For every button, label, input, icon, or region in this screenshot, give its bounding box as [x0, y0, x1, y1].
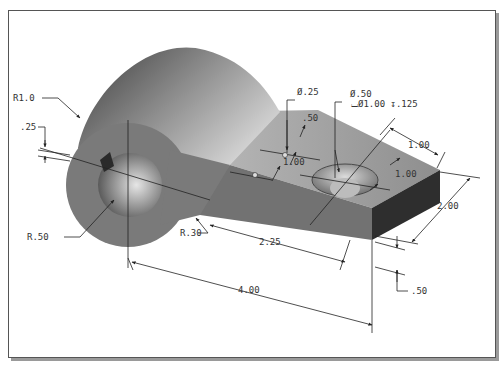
dim-slot-width: .25: [20, 122, 36, 132]
dim-small-hole-dia: Ø.25: [297, 87, 319, 97]
dim-r-bore: R.50: [27, 232, 49, 242]
dim-plate-width: 2.00: [437, 201, 459, 211]
dim-r-outer: R1.0: [13, 93, 35, 103]
dim-plate-thickness: .50: [411, 286, 427, 296]
dim-hole-offset: 2.25: [259, 237, 281, 247]
dim-r-fillet: R.30: [180, 228, 202, 238]
dim-small-hole-spacing-y: 1.00: [283, 157, 305, 167]
small-hole-2: [253, 173, 258, 178]
dim-cbore-from-edge: 1.00: [395, 169, 417, 179]
dim-cbore-from-end: 1.00: [408, 140, 430, 150]
dim-cbore-hole-dia: Ø.50: [350, 89, 372, 99]
dim-cbore-spec: ⌴Ø1.00 ↧.125: [351, 99, 418, 109]
dim-small-hole-spacing-x: .50: [302, 113, 318, 123]
isometric-drawing: R1.0 .25 R.50 R.30 Ø.25 .50 1.00 Ø.50 ⌴Ø…: [0, 0, 503, 368]
dim-overall-length: 4.00: [238, 285, 260, 295]
